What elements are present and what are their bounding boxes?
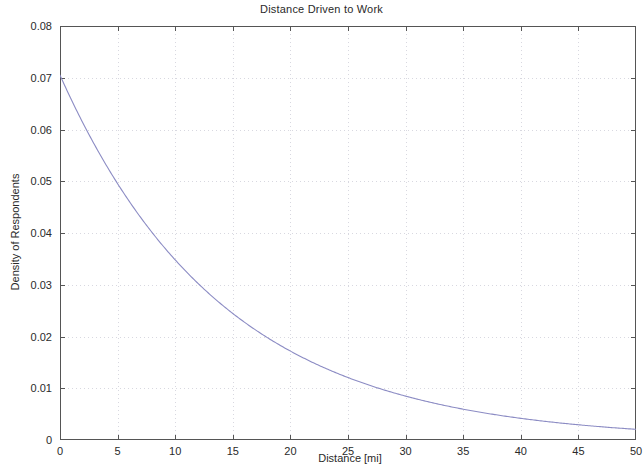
chart-title: Distance Driven to Work <box>0 3 643 15</box>
data-series-line <box>60 75 636 429</box>
chart-figure: Distance Driven to Work Density of Respo… <box>0 0 643 470</box>
plot-canvas <box>60 26 636 440</box>
plot-area <box>60 26 636 440</box>
x-axis-label: Distance [mi] <box>0 452 643 464</box>
y-tick-label: 0.01 <box>0 382 52 394</box>
y-tick-label: 0.08 <box>0 20 52 32</box>
y-tick-label: 0 <box>0 434 52 446</box>
y-tick-label: 0.03 <box>0 279 52 291</box>
y-tick-label: 0.04 <box>0 227 52 239</box>
y-tick-label: 0.07 <box>0 72 52 84</box>
y-tick-label: 0.02 <box>0 331 52 343</box>
y-tick-label: 0.06 <box>0 124 52 136</box>
y-tick-label: 0.05 <box>0 175 52 187</box>
